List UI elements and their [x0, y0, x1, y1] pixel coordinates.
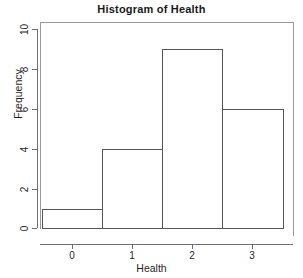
y-axis	[32, 29, 37, 228]
x-tick-label: 0	[64, 250, 80, 261]
histogram-bar	[42, 209, 102, 228]
y-tick-label: 0	[19, 221, 30, 237]
y-tick-label: 2	[19, 182, 30, 198]
y-axis-title: Frequency	[12, 54, 24, 134]
histogram-bar	[162, 49, 222, 228]
histogram-bar	[222, 109, 283, 228]
x-axis-title: Health	[0, 262, 303, 274]
plot-canvas	[0, 0, 303, 278]
y-tick-label: 4	[19, 142, 30, 158]
y-tick-label: 10	[19, 20, 30, 40]
histogram-bars	[42, 49, 283, 228]
histogram-bar	[102, 149, 162, 228]
histogram-plot: Histogram of Health	[0, 0, 303, 278]
x-tick-label: 3	[244, 250, 260, 261]
x-axis	[40, 244, 293, 249]
x-tick-label: 1	[124, 250, 140, 261]
x-tick-label: 2	[184, 250, 200, 261]
